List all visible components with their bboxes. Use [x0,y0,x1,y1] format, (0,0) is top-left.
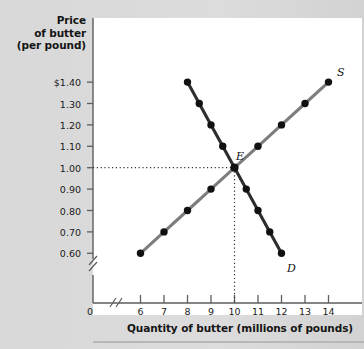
y-tick-label-0.60: 0.60 [35,248,81,259]
supply-curve-label: S [337,66,345,79]
x-tick-label-9: 9 [200,306,222,317]
y-tick-label-1.10: 1.10 [35,141,81,152]
x-tick-label-11: 11 [247,306,269,317]
demand-curve-label: D [287,262,296,275]
x-tick-label-7: 7 [153,306,175,317]
x-tick-label-12: 12 [271,306,293,317]
figure-canvas: Price of butter (per pound) Quantity of … [0,0,364,349]
origin-label: 0 [83,306,97,317]
x-tick-label-6: 6 [130,306,152,317]
y-tick-label-1.40: $1.40 [35,77,81,88]
y-tick-label-1.30: 1.30 [35,99,81,110]
chart-svg [0,0,364,349]
equilibrium-label: E [236,150,244,163]
y-tick-label-0.80: 0.80 [35,206,81,217]
y-axis-ticks [87,82,93,253]
y-tick-label-1.20: 1.20 [35,120,81,131]
equilibrium-point-marker [230,164,238,172]
x-tick-label-10: 10 [224,306,246,317]
x-tick-label-14: 14 [318,306,340,317]
x-tick-label-13: 13 [294,306,316,317]
x-tick-label-8: 8 [177,306,199,317]
y-tick-label-0.90: 0.90 [35,184,81,195]
y-tick-label-1.00: 1.00 [35,163,81,174]
y-tick-label-0.70: 0.70 [35,227,81,238]
